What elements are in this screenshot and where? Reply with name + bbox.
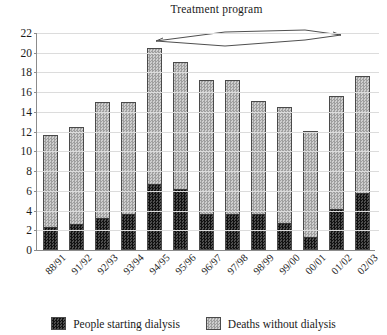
bar-stack[interactable] bbox=[277, 107, 292, 250]
y-axis-tick-mark bbox=[34, 33, 37, 34]
gridline bbox=[37, 112, 379, 113]
gridline bbox=[37, 33, 379, 34]
bar-stack[interactable] bbox=[199, 80, 214, 250]
bar-slot[interactable] bbox=[225, 33, 240, 250]
chart-legend: People starting dialysis Deaths without … bbox=[0, 317, 387, 330]
y-axis-tick-label: 18 bbox=[21, 66, 33, 78]
y-axis-tick-label: 16 bbox=[21, 86, 33, 98]
gridline bbox=[37, 211, 379, 212]
x-axis-tick-label: 96/97 bbox=[199, 252, 224, 277]
bar-stack[interactable] bbox=[355, 76, 370, 250]
gridline bbox=[37, 92, 379, 93]
bar-slot[interactable] bbox=[43, 33, 58, 250]
bar-slot[interactable] bbox=[329, 33, 344, 250]
bar-stack[interactable] bbox=[69, 127, 84, 250]
y-axis-tick-mark bbox=[34, 230, 37, 231]
y-axis-tick-mark bbox=[34, 211, 37, 212]
x-axis-tick-label: 98/99 bbox=[251, 252, 276, 277]
bar-segment-people-starting-dialysis[interactable] bbox=[174, 189, 187, 249]
y-axis-tick-label: 20 bbox=[21, 47, 33, 59]
y-axis-tick-label: 10 bbox=[21, 145, 33, 157]
gridline bbox=[37, 151, 379, 152]
bar-slot[interactable] bbox=[121, 33, 136, 250]
gridline bbox=[37, 72, 379, 73]
bar-slot[interactable] bbox=[277, 33, 292, 250]
y-axis-tick-label: 2 bbox=[26, 224, 32, 236]
y-axis-tick-mark bbox=[34, 151, 37, 152]
bar-slot[interactable] bbox=[173, 33, 188, 250]
bar-segment-people-starting-dialysis[interactable] bbox=[278, 223, 291, 249]
gridline bbox=[37, 132, 379, 133]
x-axis-tick-label: 91/92 bbox=[69, 252, 94, 277]
y-axis-tick-label: 14 bbox=[21, 106, 33, 118]
x-axis-tick-label: 99/00 bbox=[277, 252, 302, 277]
y-axis-tick-label: 12 bbox=[21, 126, 33, 138]
x-axis-tick-label: 00/01 bbox=[303, 252, 328, 277]
y-axis-tick-mark bbox=[34, 191, 37, 192]
bar-segment-people-starting-dialysis[interactable] bbox=[330, 209, 343, 249]
y-axis-tick-mark bbox=[34, 112, 37, 113]
y-axis-tick-label: 22 bbox=[21, 27, 33, 39]
bar-slot[interactable] bbox=[199, 33, 214, 250]
x-axis-tick-label: 94/95 bbox=[147, 252, 172, 277]
bar-stack[interactable] bbox=[329, 96, 344, 250]
y-axis-tick-label: 6 bbox=[26, 185, 32, 197]
bar-slot[interactable] bbox=[355, 33, 370, 250]
x-axis-tick-label: 02/03 bbox=[355, 252, 380, 277]
dark-checker-swatch-icon bbox=[51, 317, 66, 330]
y-axis-tick-label: 0 bbox=[26, 244, 32, 256]
y-axis-tick-mark bbox=[34, 72, 37, 73]
y-axis-tick-mark bbox=[34, 250, 37, 251]
y-axis-tick-mark bbox=[34, 92, 37, 93]
legend-item-deaths-without-dialysis: Deaths without dialysis bbox=[206, 317, 336, 330]
x-axis-labels: 88/9191/9292/9393/9494/9595/9696/9797/98… bbox=[36, 252, 374, 298]
y-axis-tick-mark bbox=[34, 132, 37, 133]
y-axis-tick-label: 8 bbox=[26, 165, 32, 177]
bars-layer bbox=[37, 33, 375, 250]
bar-slot[interactable] bbox=[251, 33, 266, 250]
bar-slot[interactable] bbox=[95, 33, 110, 250]
gridline bbox=[37, 171, 379, 172]
x-axis-tick-label: 88/91 bbox=[43, 252, 68, 277]
bar-segment-people-starting-dialysis[interactable] bbox=[356, 193, 369, 249]
bar-slot[interactable] bbox=[69, 33, 84, 250]
bar-slot[interactable] bbox=[147, 33, 162, 250]
plot-area: 0246810121416182022 bbox=[36, 33, 375, 251]
y-axis-tick-label: 4 bbox=[26, 205, 32, 217]
bar-segment-people-starting-dialysis[interactable] bbox=[70, 224, 83, 249]
bar-stack[interactable] bbox=[95, 102, 110, 250]
bar-segment-people-starting-dialysis[interactable] bbox=[304, 237, 317, 249]
legend-label: People starting dialysis bbox=[73, 318, 180, 330]
light-checker-swatch-icon bbox=[206, 317, 221, 330]
x-axis-tick-label: 92/93 bbox=[95, 252, 120, 277]
gridline bbox=[37, 191, 379, 192]
bar-segment-people-starting-dialysis[interactable] bbox=[148, 184, 161, 249]
x-axis-tick-label: 01/02 bbox=[329, 252, 354, 277]
stacked-bar-chart: Treatment program 0246810121416182022 88… bbox=[0, 0, 387, 335]
bar-stack[interactable] bbox=[225, 80, 240, 250]
bar-stack[interactable] bbox=[147, 48, 162, 250]
y-axis-tick-mark bbox=[34, 171, 37, 172]
x-axis-tick-label: 97/98 bbox=[225, 252, 250, 277]
bar-slot[interactable] bbox=[303, 33, 318, 250]
bar-stack[interactable] bbox=[173, 62, 188, 250]
treatment-program-annotation-label: Treatment program bbox=[0, 3, 387, 15]
x-axis-tick-label: 95/96 bbox=[173, 252, 198, 277]
gridline bbox=[37, 230, 379, 231]
x-axis-tick-label: 93/94 bbox=[121, 252, 146, 277]
bar-stack[interactable] bbox=[121, 102, 136, 250]
y-axis-tick-mark bbox=[34, 53, 37, 54]
bar-segment-people-starting-dialysis[interactable] bbox=[96, 218, 109, 249]
bar-stack[interactable] bbox=[251, 101, 266, 250]
legend-item-people-starting-dialysis: People starting dialysis bbox=[51, 317, 180, 330]
legend-label: Deaths without dialysis bbox=[228, 318, 336, 330]
gridline bbox=[37, 53, 379, 54]
